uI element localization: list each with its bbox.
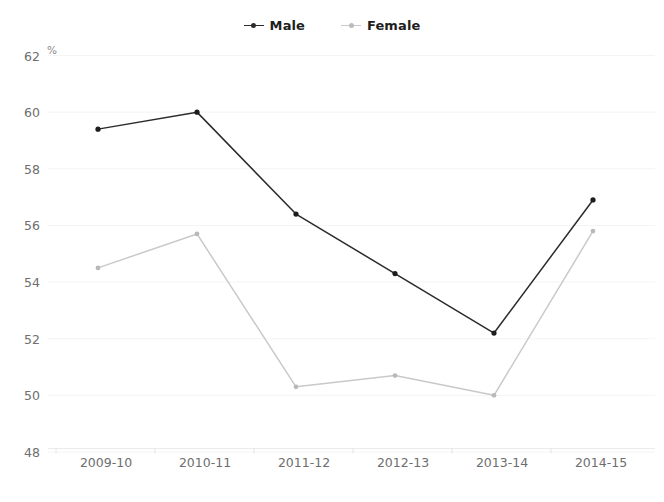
data-point-female-2014-15[interactable] (591, 229, 596, 234)
series-line-male (98, 112, 593, 333)
data-point-male-2011-12[interactable] (293, 212, 298, 217)
plot-area (0, 0, 664, 502)
data-point-female-2010-11[interactable] (195, 232, 200, 237)
data-point-male-2012-13[interactable] (392, 271, 397, 276)
axis-lines (48, 449, 655, 454)
data-point-female-2012-13[interactable] (393, 373, 398, 378)
series-line-female (98, 231, 593, 395)
data-point-male-2009-10[interactable] (95, 127, 100, 132)
line-chart: SA Male Female % 4850525456586062 2009-1… (0, 0, 664, 502)
data-point-female-2011-12[interactable] (294, 384, 299, 389)
data-series (95, 110, 595, 398)
data-point-female-2009-10[interactable] (96, 266, 101, 271)
data-point-female-2013-14[interactable] (492, 393, 497, 398)
data-point-male-2013-14[interactable] (491, 330, 496, 335)
data-point-male-2010-11[interactable] (194, 110, 199, 115)
data-point-male-2014-15[interactable] (590, 197, 595, 202)
